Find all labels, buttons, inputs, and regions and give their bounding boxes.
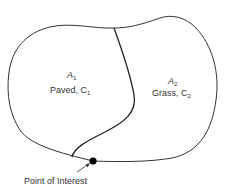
point-of-interest-marker [89,157,96,164]
region-a1-symbol: A1 [66,70,77,81]
point-of-interest-label: Point of Interest [24,176,88,186]
watershed-diagram: A1 Paved, C1 A2 Grass, C2 Point of Inter… [0,0,225,193]
arrowhead-icon [86,163,91,167]
region-a2-surface: Grass, C2 [152,88,192,99]
region-a1-surface: Paved, C1 [50,85,91,96]
region-a2-symbol: A2 [167,76,178,87]
